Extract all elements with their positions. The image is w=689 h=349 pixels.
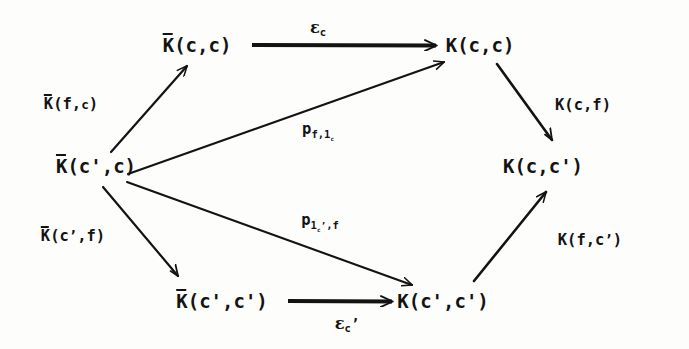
node-kbar-c-prime-c: K(c',c) — [56, 155, 136, 177]
node-kbar-c-prime-c-prime: K(c',c') — [176, 290, 268, 312]
edge-label-kbar-f-c: K(f,c) — [44, 95, 98, 113]
node-kbar-c-c-args: (c,c) — [174, 34, 231, 56]
edge-label-kbar-c-prime-f: K(c’,f) — [41, 227, 105, 245]
node-k-c-c-args: (c,c) — [457, 34, 514, 56]
arrow-k-f-c-prime — [474, 192, 546, 281]
node-k-c-c-prime-args: (c,c') — [514, 155, 583, 177]
arrow-epsilon-c-prime — [288, 301, 392, 302]
edge-label-k-c-f: K(c,f) — [555, 96, 611, 114]
arrow-p-1c-prime-f — [127, 182, 412, 285]
node-k-c-c-prime: K(c,c') — [503, 155, 583, 177]
node-kbar-c-c: K(c,c) — [163, 34, 232, 56]
edge-label-p-f-1c: pf,1c — [302, 120, 334, 142]
diagram-canvas: K(c,c) K(c,c) K(c',c) K(c,c') K(c',c') K… — [0, 0, 689, 349]
node-kbar-c-prime-c-args: (c',c) — [67, 155, 136, 177]
edge-label-p-1c-prime-f: p1c’,f — [301, 211, 339, 233]
arrow-kbar-f-c — [111, 66, 187, 152]
edge-label-epsilon-c-prime: εc’ — [335, 314, 360, 335]
arrow-k-c-f — [497, 64, 552, 140]
node-kbar-c-prime-c-prime-args: (c',c') — [188, 290, 268, 312]
arrow-kbar-c-prime-f — [103, 187, 178, 276]
edge-label-epsilon-c: εc — [310, 18, 326, 39]
arrow-epsilon-c — [252, 45, 436, 46]
edge-label-k-f-c-prime: K(f,c’) — [558, 231, 622, 249]
node-k-c-prime-c-prime-args: (c',c') — [409, 290, 489, 312]
node-k-c-c: K(c,c) — [446, 34, 515, 56]
node-k-c-prime-c-prime: K(c',c') — [397, 290, 489, 312]
